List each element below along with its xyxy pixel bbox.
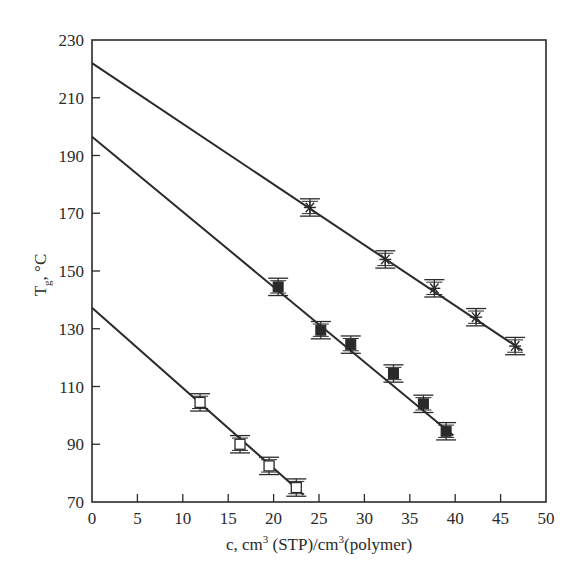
x-tick-label: 0 [88,509,97,528]
data-point-open-square [259,457,279,474]
data-point-filled-square [268,278,288,295]
data-point-asterisk [300,199,320,216]
data-point-asterisk [424,280,444,297]
x-tick-label: 20 [265,509,282,528]
data-point-asterisk [375,251,395,268]
data-point-filled-square [311,322,331,339]
data-point-filled-square [436,423,456,440]
x-tick-label: 35 [401,509,418,528]
data-point-filled-square [383,365,403,382]
y-tick-label: 90 [67,435,84,454]
y-tick-label: 70 [67,493,84,512]
y-tick-label: 110 [59,378,84,397]
chart: 05101520253035404550 7090110130150170190… [0,0,583,587]
y-axis-ticks: 7090110130150170190210230 [59,31,101,512]
x-tick-label: 45 [492,509,509,528]
x-tick-label: 30 [356,509,373,528]
x-tick-label: 40 [447,509,464,528]
x-axis-ticks: 05101520253035404550 [88,494,555,528]
data-point-asterisk [505,337,525,354]
y-axis-title: Tg, °C [31,254,53,297]
x-tick-label: 10 [174,509,191,528]
fit-lines [92,63,522,495]
y-tick-label: 190 [59,147,85,166]
data-point-open-square [286,479,306,496]
y-tick-label: 150 [59,262,85,281]
x-tick-label: 25 [311,509,328,528]
y-tick-label: 230 [59,31,85,50]
x-tick-label: 15 [220,509,237,528]
x-axis-title: c, cm3 (STP)/cm3(polymer) [226,533,412,554]
x-tick-label: 50 [538,509,555,528]
y-tick-label: 170 [59,204,85,223]
data-point-asterisk [466,309,486,326]
data-markers [190,199,525,496]
y-tick-label: 210 [59,89,85,108]
x-tick-label: 5 [133,509,142,528]
data-point-open-square [190,394,210,411]
y-tick-label: 130 [59,320,85,339]
